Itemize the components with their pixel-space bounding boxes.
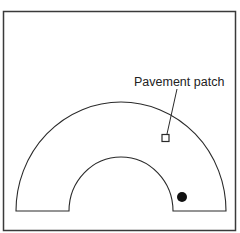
diagram-canvas: Pavement patch (0, 0, 240, 233)
pavement-patch-marker (162, 135, 169, 142)
pavement-patch-leader-line (167, 89, 177, 134)
point-marker-dot (177, 192, 187, 202)
curved-road-shape (16, 102, 226, 211)
diagram-frame (4, 12, 236, 231)
pavement-patch-label: Pavement patch (134, 75, 224, 89)
